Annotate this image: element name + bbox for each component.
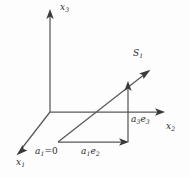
axis-x1-arrowhead: [17, 145, 28, 155]
vector-label-s1: S1: [133, 49, 143, 58]
vector-s1: [58, 70, 151, 142]
vector-s1-line: [58, 75, 144, 142]
axis-x1-line: [23, 112, 51, 148]
vector-label-a3e3-basis-sub: 3: [146, 118, 150, 125]
axis-x3: [46, 9, 53, 112]
vector-label-s1-sub: 1: [139, 52, 143, 59]
vector-label-a1e2-basis-sub: 2: [96, 150, 100, 157]
axis-label-x2: x2: [166, 122, 175, 131]
axis-label-x1-sub: 1: [21, 161, 25, 168]
vector-label-a3e3-coef-sub: 3: [136, 118, 140, 125]
vector-label-a1e2: a1e2: [81, 147, 100, 156]
axis-label-x3: x3: [60, 3, 69, 12]
axis-label-x3-sub: 3: [65, 6, 69, 13]
vector-a1e2: [58, 138, 129, 145]
vector-label-a1e2-coef-sub: 1: [86, 150, 90, 157]
annotation-a1-sub: 1: [40, 150, 44, 157]
vector-label-a3e3: a3e3: [131, 115, 150, 124]
annotation-a1-equals-zero: a1=0: [35, 147, 58, 156]
axis-label-x1: x1: [16, 158, 25, 167]
annotation-a1-tail: =0: [44, 146, 57, 156]
axis-label-x2-sub: 2: [171, 125, 175, 132]
vector-diagram-figure: x3 x2 x1 S1 a1e2 a3e3 a1=0: [0, 0, 190, 177]
